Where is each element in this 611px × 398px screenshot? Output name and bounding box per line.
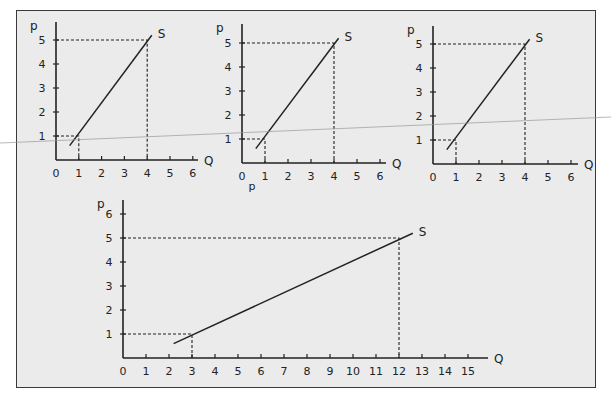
y-tick-label: 4 [106,256,113,269]
panel-4: 0123456789101112131415123456pQS [97,197,503,378]
x-axis-label: Q [204,154,213,168]
supply-curve-label: S [158,27,166,41]
reference-dashed-line [433,140,456,164]
x-tick-label: 5 [235,365,242,378]
x-tick-label: 1 [262,170,269,183]
x-tick-label: 3 [308,170,315,183]
x-tick-label: 9 [327,365,334,378]
panel-2: 012345612345pQS [216,21,401,183]
y-tick-label: 2 [106,304,113,317]
y-tick-label: 1 [416,134,423,147]
x-axis-label: Q [494,352,503,366]
y-tick-label: 4 [39,58,46,71]
supply-curve-label: S [419,225,427,239]
y-axis-label: p [30,19,38,33]
x-tick-label: 6 [568,171,575,184]
y-tick-label: 4 [225,61,232,74]
y-tick-label: 3 [106,280,113,293]
y-axis-label: p [407,23,415,37]
x-tick-label: 8 [304,365,311,378]
x-tick-label: 2 [285,170,292,183]
y-tick-label: 4 [416,62,423,75]
x-tick-label: 3 [499,171,506,184]
x-tick-label: 2 [476,171,483,184]
x-tick-label: 2 [166,365,173,378]
x-axis-label: Q [392,157,401,171]
stray-p-label: p [249,180,256,193]
x-tick-label: 5 [545,171,552,184]
x-tick-label: 1 [75,167,82,180]
supply-curves-figure: 012345612345pQS012345612345pQS0123456123… [0,0,611,398]
y-tick-label: 3 [39,82,46,95]
x-tick-label: 2 [98,167,105,180]
supply-curve [70,35,152,145]
x-tick-label: 7 [281,365,288,378]
x-tick-label: 13 [415,365,429,378]
reference-dashed-line [242,43,334,163]
x-tick-label: 3 [121,167,128,180]
panel-1: 012345612345pQS [30,19,213,180]
y-tick-label: 1 [106,328,113,341]
x-tick-label: 6 [189,167,196,180]
x-tick-label: 1 [143,365,150,378]
y-axis-label: p [97,197,105,211]
x-tick-label: 15 [461,365,475,378]
supply-curve [447,39,530,149]
scan-artifact-line [0,117,611,143]
x-axis-label: Q [584,158,593,172]
y-tick-label: 5 [416,38,423,51]
x-tick-label: 0 [120,365,127,378]
x-tick-label: 4 [522,171,529,184]
x-tick-label: 10 [346,365,360,378]
y-tick-label: 2 [39,106,46,119]
x-tick-label: 4 [144,167,151,180]
y-tick-label: 2 [225,109,232,122]
x-tick-label: 0 [430,171,437,184]
reference-dashed-line [123,334,192,358]
supply-curve-label: S [345,30,353,44]
x-tick-label: 4 [331,170,338,183]
x-tick-label: 6 [377,170,384,183]
supply-curve-label: S [536,31,544,45]
y-axis-label: p [216,21,224,35]
x-tick-label: 4 [212,365,219,378]
reference-dashed-line [56,40,147,160]
y-tick-label: 5 [225,37,232,50]
supply-curve [174,233,413,343]
y-tick-label: 6 [106,208,113,221]
x-tick-label: 1 [453,171,460,184]
x-tick-label: 5 [167,167,174,180]
x-tick-label: 3 [189,365,196,378]
y-tick-label: 1 [225,133,232,146]
x-tick-label: 11 [369,365,383,378]
x-tick-label: 0 [53,167,60,180]
reference-dashed-line [242,139,265,163]
x-tick-label: 14 [438,365,452,378]
x-tick-label: 0 [239,170,246,183]
y-tick-label: 5 [39,34,46,47]
x-tick-label: 5 [354,170,361,183]
reference-dashed-line [433,44,525,164]
x-tick-label: 12 [392,365,406,378]
reference-dashed-line [123,238,399,358]
panel-3: 012345612345pQS [407,23,593,184]
y-tick-label: 3 [225,85,232,98]
y-tick-label: 3 [416,86,423,99]
y-tick-label: 5 [106,232,113,245]
x-tick-label: 6 [258,365,265,378]
y-tick-label: 2 [416,110,423,123]
